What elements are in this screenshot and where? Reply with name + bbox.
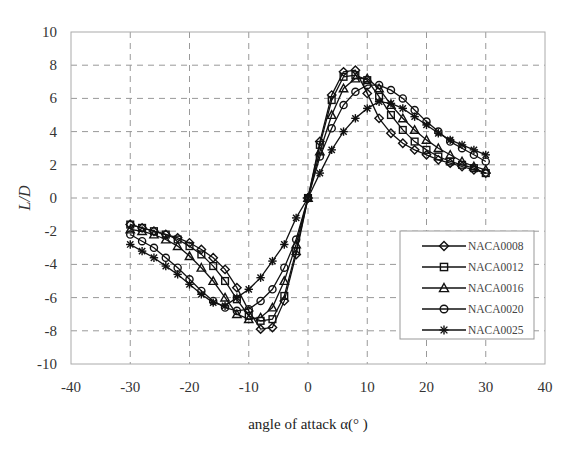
y-tick-label: 6 bbox=[50, 90, 58, 106]
legend: NACA0008NACA0012NACA0016NACA0020NACA0025 bbox=[400, 231, 534, 339]
y-tick-label: 10 bbox=[42, 24, 57, 40]
star-marker-icon bbox=[221, 302, 229, 310]
star-marker-icon bbox=[387, 99, 395, 107]
star-marker-icon bbox=[185, 280, 193, 288]
legend-label: NACA0008 bbox=[468, 240, 524, 252]
y-tick-label: -4 bbox=[45, 256, 58, 272]
x-tick-label: -20 bbox=[180, 379, 200, 395]
star-marker-icon bbox=[458, 141, 466, 149]
star-marker-icon bbox=[351, 114, 359, 122]
y-tick-label: 4 bbox=[50, 124, 58, 140]
legend-label: NACA0020 bbox=[468, 303, 524, 315]
star-marker-icon bbox=[245, 285, 253, 293]
y-tick-label: -2 bbox=[45, 223, 58, 239]
y-tick-label: 0 bbox=[50, 190, 58, 206]
x-tick-label: -30 bbox=[120, 379, 140, 395]
star-marker-icon bbox=[482, 151, 490, 159]
star-marker-icon bbox=[434, 129, 442, 137]
star-marker-icon bbox=[209, 298, 217, 306]
y-tick-label: 8 bbox=[50, 57, 58, 73]
star-marker-icon bbox=[410, 112, 418, 120]
x-tick-label: 0 bbox=[304, 379, 312, 395]
x-tick-label: 10 bbox=[360, 379, 375, 395]
y-tick-label: -6 bbox=[45, 290, 58, 306]
line-chart: -10-8-6-4-20246810 -40-30-20-10010203040… bbox=[0, 0, 574, 457]
legend-label: NACA0016 bbox=[468, 282, 524, 294]
star-marker-icon bbox=[339, 127, 347, 135]
x-tick-label: 20 bbox=[419, 379, 434, 395]
star-marker-icon bbox=[268, 257, 276, 265]
legend-label: NACA0025 bbox=[468, 324, 524, 336]
star-marker-icon bbox=[446, 136, 454, 144]
star-marker-icon bbox=[197, 290, 205, 298]
star-marker-icon bbox=[375, 98, 383, 106]
y-tick-label: -10 bbox=[37, 356, 57, 372]
legend-label: NACA0012 bbox=[468, 261, 524, 273]
star-marker-icon bbox=[233, 293, 241, 301]
x-tick-label: -10 bbox=[239, 379, 259, 395]
star-marker-icon bbox=[304, 194, 312, 202]
y-axis-ticks: -10-8-6-4-20246810 bbox=[37, 24, 58, 372]
x-tick-label: 40 bbox=[538, 379, 553, 395]
star-marker-icon bbox=[316, 169, 324, 177]
y-axis-title: L/D bbox=[16, 185, 33, 211]
star-marker-icon bbox=[328, 146, 336, 154]
star-marker-icon bbox=[399, 104, 407, 112]
star-marker-icon bbox=[363, 104, 371, 112]
x-tick-label: -40 bbox=[61, 379, 81, 395]
star-marker-icon bbox=[292, 214, 300, 222]
star-marker-icon bbox=[162, 262, 170, 270]
x-axis-title: angle of attack α(° ) bbox=[248, 416, 368, 433]
star-marker-icon bbox=[280, 240, 288, 248]
x-tick-label: 30 bbox=[478, 379, 493, 395]
y-tick-label: 2 bbox=[50, 157, 58, 173]
x-axis-ticks: -40-30-20-10010203040 bbox=[61, 379, 553, 395]
star-marker-icon bbox=[422, 121, 430, 129]
star-marker-icon bbox=[126, 240, 134, 248]
star-marker-icon bbox=[470, 146, 478, 154]
star-marker-icon bbox=[138, 247, 146, 255]
y-tick-label: -8 bbox=[45, 323, 58, 339]
star-marker-icon bbox=[440, 326, 449, 335]
star-marker-icon bbox=[173, 270, 181, 278]
star-marker-icon bbox=[150, 254, 158, 262]
star-marker-icon bbox=[256, 273, 264, 281]
